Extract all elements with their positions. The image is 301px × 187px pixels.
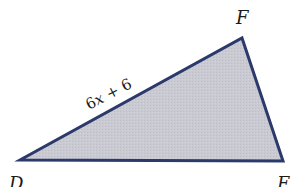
vertex-label-f: F [235,7,250,28]
triangle-diagram: F D E 6x + 6 [0,0,301,187]
triangle-def [20,38,283,161]
vertex-label-e: E [276,173,290,187]
vertex-label-d: D [8,173,24,187]
